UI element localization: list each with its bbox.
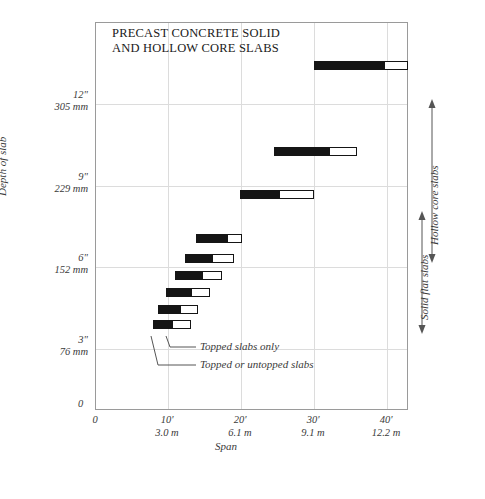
y-tick-3in-primary: 3"	[0, 334, 88, 346]
gridline-vertical-10ft	[168, 23, 169, 409]
bar-segment-solid	[158, 305, 180, 314]
y-tick-6in-primary: 6"	[0, 252, 88, 264]
bar-segment-hollow	[279, 190, 314, 199]
x-tick-20ft: 20' 6.1 m	[205, 413, 275, 439]
bar-segment-solid	[175, 271, 202, 280]
y-tick-3in-secondary: 76 mm	[0, 346, 88, 358]
range-label-hollow-core: Hollow core slabs	[428, 165, 440, 245]
y-tick-12in: 12" 305 mm	[0, 89, 88, 113]
y-tick-3in: 3" 76 mm	[0, 334, 88, 358]
gridline-vertical-30ft	[314, 23, 315, 409]
range-arrow-hollow-core-head-top	[429, 99, 436, 108]
x-tick-30ft-secondary: 9.1 m	[278, 426, 348, 439]
bar-depth-5.3in	[185, 254, 234, 263]
gridline-horizontal-6in	[96, 267, 407, 268]
bar-segment-hollow	[384, 61, 408, 70]
gridline-horizontal-9in	[96, 186, 407, 187]
bar-segment-solid	[153, 320, 173, 329]
bar-segment-hollow	[227, 234, 242, 243]
x-tick-40ft-primary: 40'	[351, 413, 421, 426]
bar-depth-9in	[274, 147, 356, 156]
bar-segment-hollow	[329, 147, 357, 156]
x-tick-20ft-secondary: 6.1 m	[205, 426, 275, 439]
bar-segment-solid	[314, 61, 383, 70]
range-arrow-solid-flat-head-bottom	[419, 325, 426, 334]
y-tick-9in-secondary: 229 mm	[0, 183, 88, 195]
range-arrow-solid-flat-head-top	[419, 211, 426, 220]
range-label-solid-flat: Solid flat slabs	[418, 255, 430, 320]
y-tick-12in-primary: 12"	[0, 89, 88, 101]
bar-depth-7.5in	[240, 190, 314, 199]
y-tick-9in-primary: 9"	[0, 171, 88, 183]
chart-title: PRECAST CONCRETE SOLID AND HOLLOW CORE S…	[112, 26, 280, 56]
gridline-vertical-40ft	[387, 23, 388, 409]
x-tick-0: 0	[60, 413, 130, 426]
bar-depth-4.7in	[175, 271, 222, 280]
x-tick-10ft-primary: 10'	[132, 413, 202, 426]
bar-depth-3in	[153, 320, 191, 329]
bar-segment-hollow	[172, 320, 190, 329]
y-tick-0: 0	[78, 398, 83, 409]
annotation-topped-or-untopped: Topped or untopped slabs	[200, 358, 314, 370]
annotation-topped-only: Topped slabs only	[200, 340, 279, 352]
bar-segment-solid	[166, 288, 191, 297]
x-tick-20ft-primary: 20'	[205, 413, 275, 426]
x-tick-10ft: 10' 3.0 m	[132, 413, 202, 439]
gridline-horizontal-12in	[96, 104, 407, 105]
bar-segment-solid	[240, 190, 279, 199]
bar-segment-hollow	[180, 305, 198, 314]
bar-segment-hollow	[191, 288, 211, 297]
chart-figure: PRECAST CONCRETE SOLID AND HOLLOW CORE S…	[0, 0, 485, 499]
x-axis-label: Span	[215, 440, 237, 452]
bar-depth-4.1in	[166, 288, 210, 297]
bar-segment-solid	[274, 147, 329, 156]
x-tick-40ft-secondary: 12.2 m	[351, 426, 421, 439]
bar-segment-hollow	[212, 254, 234, 263]
bar-segment-solid	[196, 234, 227, 243]
x-tick-10ft-secondary: 3.0 m	[132, 426, 202, 439]
y-tick-6in-secondary: 152 mm	[0, 264, 88, 276]
x-tick-30ft: 30' 9.1 m	[278, 413, 348, 439]
bar-depth-12in	[314, 61, 407, 70]
bar-depth-3.5in	[158, 305, 198, 314]
x-tick-30ft-primary: 30'	[278, 413, 348, 426]
x-tick-0-primary: 0	[60, 413, 130, 426]
y-tick-12in-secondary: 305 mm	[0, 101, 88, 113]
y-tick-6in: 6" 152 mm	[0, 252, 88, 276]
y-tick-9in: 9" 229 mm	[0, 171, 88, 195]
bar-depth-6in	[196, 234, 241, 243]
bar-segment-hollow	[202, 271, 222, 280]
bar-segment-solid	[185, 254, 213, 263]
x-tick-40ft: 40' 12.2 m	[351, 413, 421, 439]
